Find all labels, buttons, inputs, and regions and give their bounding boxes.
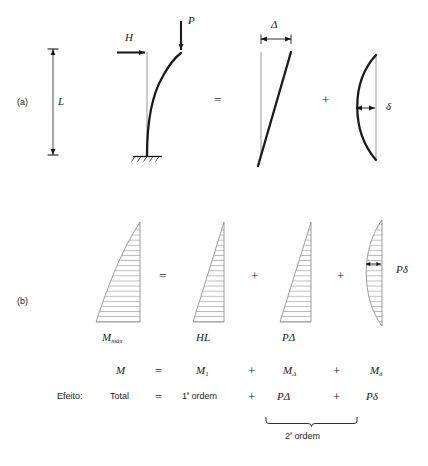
effect-row-plus-2: + bbox=[333, 390, 340, 403]
moment-diagram-p-delta bbox=[280, 222, 311, 322]
equation-term-3-base: M bbox=[370, 364, 379, 376]
column-deformed-curve bbox=[147, 53, 181, 156]
effect-row-p-delta: PΔ bbox=[277, 391, 290, 402]
operator-plus-1-row-b: + bbox=[251, 269, 258, 282]
equation-term-2-sub: Δ bbox=[292, 370, 296, 377]
second-order-brace-label-word: ordem bbox=[295, 431, 321, 441]
panel-label-a: (a) bbox=[17, 98, 28, 107]
equation-term-1-base: M bbox=[196, 364, 205, 376]
operator-equals-row-a: = bbox=[214, 93, 221, 106]
equation-equals: = bbox=[155, 364, 162, 377]
moment-diagram-p-delta-low bbox=[366, 220, 382, 326]
figure-root: (a) (b) L H P Δ δ = + = + + Mmáx HL PΔ P… bbox=[0, 0, 428, 466]
moment-diagram-total bbox=[96, 222, 140, 322]
second-order-brace-label: 2ª ordem bbox=[285, 432, 320, 441]
equation-term-1: M1 bbox=[196, 365, 209, 377]
dimension-line-L bbox=[48, 49, 59, 155]
diagram-label-p-delta: PΔ bbox=[282, 332, 295, 343]
panel-label-b: (b) bbox=[17, 297, 28, 306]
effect-row-total: Total bbox=[110, 392, 129, 401]
effect-row-equals: = bbox=[155, 390, 162, 403]
label-delta-cap: Δ bbox=[271, 19, 277, 30]
operator-plus-2-row-b: + bbox=[337, 269, 344, 282]
diagram-label-total-sub: máx bbox=[111, 337, 122, 344]
operator-plus-row-a: + bbox=[322, 93, 329, 106]
effect-row-caption: Efeito: bbox=[57, 392, 83, 401]
equation-term-1-sub: 1 bbox=[205, 370, 208, 377]
effect-row-first-order-text: ordem bbox=[192, 391, 218, 401]
effect-row-plus-1: + bbox=[248, 390, 255, 403]
diagram-label-p-delta-low: Pδ bbox=[396, 264, 408, 275]
equation-plus-2: + bbox=[333, 364, 340, 377]
equation-lhs: M bbox=[116, 365, 125, 376]
equation-plus-1: + bbox=[248, 364, 255, 377]
equation-term-3-sub: δ bbox=[379, 370, 382, 377]
second-order-brace bbox=[266, 417, 357, 427]
effect-row-first-order: 1ª ordem bbox=[182, 392, 217, 401]
dimension-delta-cap bbox=[261, 35, 291, 45]
label-delta-low: δ bbox=[386, 101, 391, 112]
effect-row-p-delta-low: Pδ bbox=[366, 391, 378, 402]
fixed-support bbox=[132, 157, 163, 162]
bow-deformed-curve bbox=[357, 55, 376, 160]
equation-term-2-base: M bbox=[283, 364, 292, 376]
moment-diagram-first-order bbox=[193, 222, 224, 322]
diagram-label-total-base: M bbox=[102, 331, 111, 343]
diagram-label-total: Mmáx bbox=[102, 332, 123, 344]
label-P: P bbox=[188, 15, 195, 26]
equation-term-3: Mδ bbox=[370, 365, 382, 377]
label-H: H bbox=[125, 32, 133, 43]
equation-term-2: MΔ bbox=[283, 365, 296, 377]
operator-equals-row-b: = bbox=[159, 269, 166, 282]
diagram-label-first-order: HL bbox=[196, 332, 210, 343]
sway-deformed-line bbox=[258, 52, 291, 166]
label-L: L bbox=[58, 96, 64, 107]
